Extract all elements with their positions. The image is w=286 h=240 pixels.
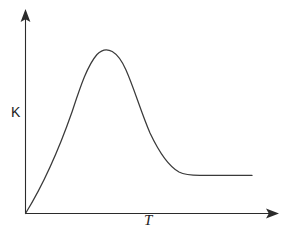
curve-k-of-t	[26, 50, 253, 214]
chart-canvas	[0, 0, 286, 240]
x-axis-label: T	[144, 213, 152, 228]
chart-figure: K T	[0, 0, 286, 240]
y-axis-label: K	[11, 105, 20, 119]
